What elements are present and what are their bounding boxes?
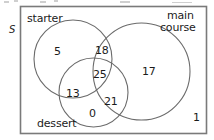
region-value-main-and-dessert: 21 — [104, 96, 118, 107]
set-label-dessert: dessert — [37, 118, 76, 130]
universal-set-label: S — [9, 24, 15, 36]
region-value-starter-only: 5 — [54, 46, 61, 57]
region-value-starter-and-dessert: 13 — [66, 88, 80, 99]
region-value-starter-and-main: 18 — [95, 45, 109, 56]
region-value-starter-main-dessert: 25 — [93, 69, 107, 80]
set-label-starter: starter — [27, 13, 63, 25]
region-value-outside-all: 1 — [193, 112, 200, 123]
region-value-dessert-only: 0 — [89, 108, 96, 119]
venn-diagram-figure: S starter main course dessert 5 18 25 13… — [0, 0, 214, 140]
set-label-main-course-line1: main — [167, 10, 194, 22]
region-value-main-only: 17 — [142, 66, 156, 77]
set-label-main-course-line2: course — [160, 22, 196, 34]
